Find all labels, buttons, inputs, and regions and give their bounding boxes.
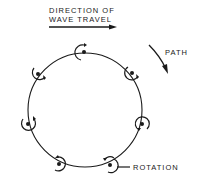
particle-bottom-right [103,157,118,173]
particle-top [75,43,87,60]
wave-direction-arrow [49,25,117,30]
title-line-1: DIRECTION OF [49,6,115,15]
wave-orbit-diagram: DIRECTION OF WAVE TRAVEL PATH ROTATION [0,0,204,186]
particle-right [135,117,149,131]
path-label: PATH [165,48,188,57]
title-line-2: WAVE TRAVEL [49,15,112,24]
diagram-graphics [0,0,204,186]
rotation-label: ROTATION [133,163,179,172]
